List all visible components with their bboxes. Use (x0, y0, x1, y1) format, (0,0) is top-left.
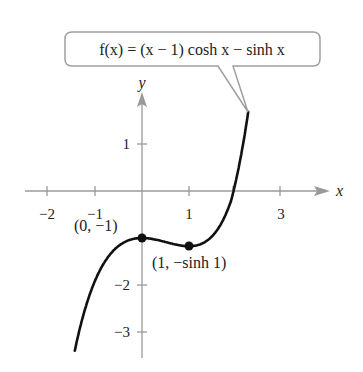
function-label: f(x) = (x − 1) cosh x − sinh x (99, 41, 285, 59)
x-axis (25, 186, 320, 196)
x-tick-label: −2 (39, 206, 55, 222)
x-tick-label: 3 (277, 206, 285, 222)
x-axis-label: x (335, 182, 343, 199)
y-tick-label: −3 (114, 324, 130, 340)
y-axis (137, 98, 147, 358)
point-1-minus-sinh1 (185, 242, 194, 251)
graph: −2 −1 1 3 1 −2 −3 x y (0, −1) (1, −sinh … (0, 0, 363, 372)
x-tick-label: 1 (185, 206, 193, 222)
point-0-minus1 (138, 234, 147, 243)
point-label-0: (0, −1) (74, 217, 118, 235)
y-axis-label: y (136, 74, 146, 92)
y-tick-label: 1 (123, 136, 131, 152)
point-label-1: (1, −sinh 1) (152, 254, 226, 272)
function-callout: f(x) = (x − 1) cosh x − sinh x (65, 32, 320, 112)
y-tick-label: −2 (114, 277, 130, 293)
